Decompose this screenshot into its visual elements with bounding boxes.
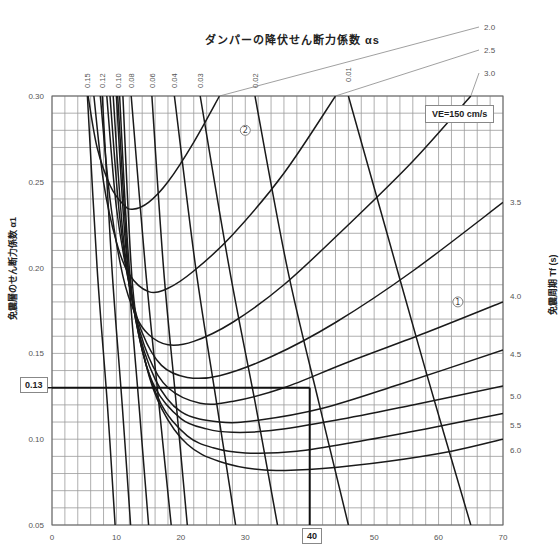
x-tick-label: 20 <box>176 533 185 542</box>
highlight-x-value: 40 <box>302 528 322 544</box>
leader-line-3-0 <box>471 73 479 96</box>
y-tick-label: 0.20 <box>28 264 44 273</box>
y-tick-label: 0.25 <box>28 178 44 187</box>
period-curve-3-0 <box>100 96 471 345</box>
period-label: 2.0 <box>484 23 496 32</box>
highlight-y-value: 0.13 <box>20 377 48 393</box>
period-label: 2.5 <box>484 46 496 55</box>
x-tick-label: 60 <box>434 533 443 542</box>
damper-label: 0.03 <box>196 73 205 88</box>
damper-label: 0.10 <box>114 73 123 88</box>
damper-label: 0.04 <box>170 73 179 88</box>
period-curve-4-5 <box>113 96 503 423</box>
y-tick-label: 0.15 <box>28 349 44 358</box>
y-tick-label: 0.30 <box>28 92 44 101</box>
x-tick-label: 50 <box>370 533 379 542</box>
damper-curve-0-08 <box>131 96 171 525</box>
period-curve-5-5 <box>120 96 503 453</box>
leader-line-2-5 <box>335 50 479 96</box>
x-tick-label: 0 <box>50 533 55 542</box>
period-label: 4.5 <box>510 350 522 359</box>
period-curve-6-0 <box>123 96 503 470</box>
period-curve-2-5 <box>94 96 336 293</box>
x-tick-label: 10 <box>112 533 121 542</box>
damper-curve-0-01 <box>348 96 470 525</box>
y-tick-label: 0.10 <box>28 435 44 444</box>
period-label: 5.5 <box>510 421 522 430</box>
damper-curve-0-02 <box>255 96 348 525</box>
damper-label: 0.12 <box>98 73 107 88</box>
velocity-annotation: VE=150 cm/s <box>425 105 494 123</box>
period-label: 3.0 <box>484 69 496 78</box>
period-label: 3.5 <box>510 198 522 207</box>
damper-label: 0.01 <box>344 67 353 82</box>
damper-label: 0.08 <box>127 73 136 88</box>
period-label: 6.0 <box>510 446 522 455</box>
period-label: 5.0 <box>510 392 522 401</box>
x-tick-label: 70 <box>499 533 508 542</box>
x-tick-label: 30 <box>241 533 250 542</box>
curve-marker-label: 1 <box>455 298 460 307</box>
damper-label: 0.15 <box>83 73 92 88</box>
damper-curve-0-04 <box>174 96 235 525</box>
curve-marker-label: 2 <box>243 126 248 135</box>
period-label: 4.0 <box>510 292 522 301</box>
damper-label: 0.06 <box>148 73 157 88</box>
leader-line-2-0 <box>220 27 479 96</box>
y-tick-label: 0.05 <box>28 521 44 530</box>
damper-curve-0-03 <box>200 96 277 525</box>
